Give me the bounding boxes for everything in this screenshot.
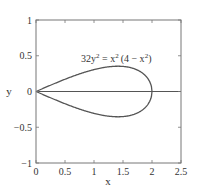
y-tick-label: 0 (27, 86, 32, 97)
x-tick-label: 2 (150, 166, 155, 177)
x-tick-label: 2.5 (175, 166, 188, 177)
chart: 00.511.522.5 −1−0.500.51 x y 32y2 = x2(4… (0, 0, 199, 190)
curve-upper-branch (36, 66, 152, 91)
y-tick-label: −1 (21, 158, 32, 169)
plot-lines (36, 66, 181, 117)
x-tick-label: 1.5 (117, 166, 130, 177)
curve-lower-branch (36, 92, 152, 117)
x-axis-label: x (105, 175, 111, 187)
x-tick-label: 0 (34, 166, 39, 177)
y-axis-label: y (6, 85, 12, 97)
x-tick-label: 0.5 (59, 166, 72, 177)
y-tick-label: −0.5 (14, 122, 32, 133)
y-tick-label: 0.5 (20, 50, 33, 61)
y-tick-labels: −1−0.500.51 (14, 15, 32, 169)
y-tick-label: 1 (27, 15, 32, 26)
equation-annotation: 32y2 = x2(4 − x2) (81, 52, 151, 65)
x-tick-label: 1 (92, 166, 97, 177)
